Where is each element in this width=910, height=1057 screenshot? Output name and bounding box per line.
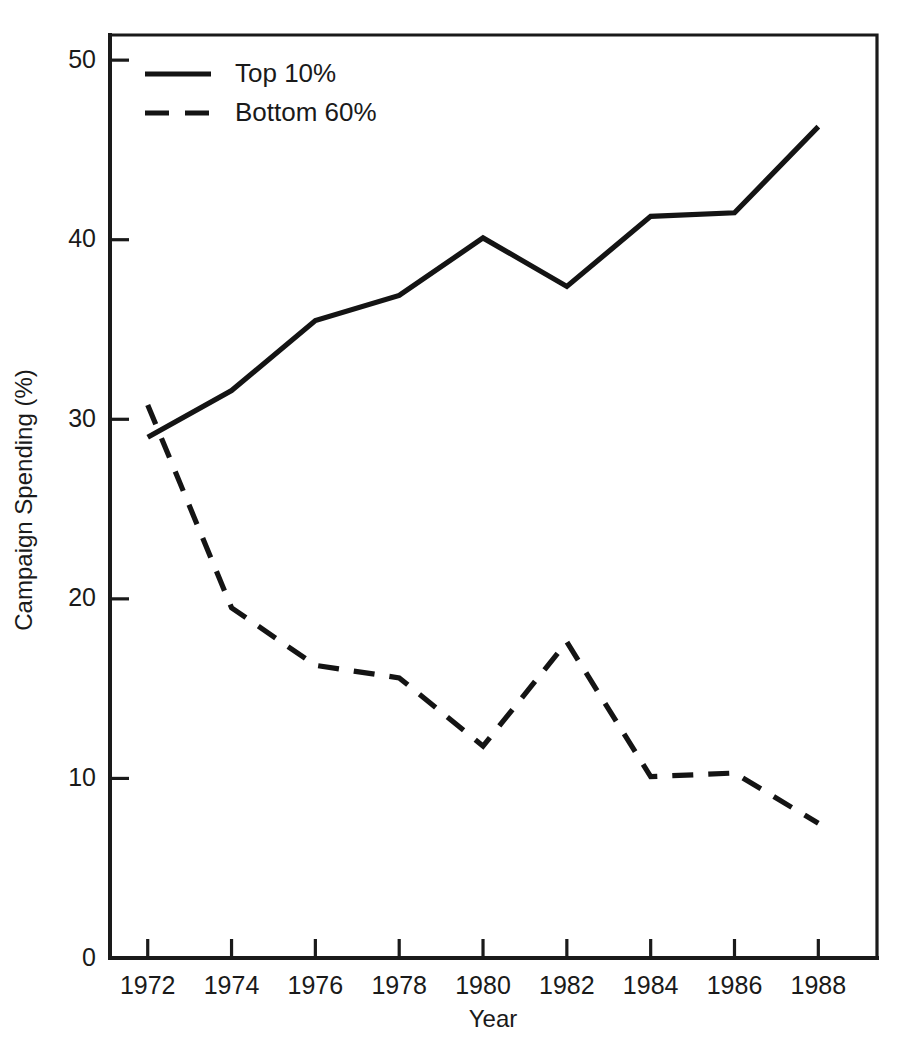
y-tick-label: 0 (82, 943, 96, 971)
x-tick-label: 1976 (288, 971, 344, 999)
y-tick-label: 40 (68, 224, 96, 252)
y-axis-ticks: 01020304050 (68, 45, 129, 971)
y-tick-label: 50 (68, 45, 96, 73)
x-tick-label: 1980 (455, 971, 511, 999)
x-tick-label: 1988 (791, 971, 847, 999)
x-tick-label: 1972 (120, 971, 176, 999)
y-tick-label: 20 (68, 583, 96, 611)
data-series-group (148, 127, 819, 824)
legend-entry-bottom-60: Bottom 60% (145, 97, 377, 127)
chart-container: 01020304050 1972197419761978198019821984… (0, 0, 910, 1057)
chart-legend: Top 10% Bottom 60% (145, 58, 377, 127)
x-tick-label: 1984 (623, 971, 679, 999)
y-tick-label: 10 (68, 763, 96, 791)
y-axis-title: Campaign Spending (%) (10, 369, 37, 630)
legend-label-top-10: Top 10% (235, 58, 336, 88)
y-tick-label: 30 (68, 404, 96, 432)
legend-entry-top-10: Top 10% (145, 58, 336, 88)
x-tick-label: 1982 (539, 971, 595, 999)
x-axis-ticks: 197219741976197819801982198419861988 (120, 939, 846, 999)
x-axis-title: Year (469, 1005, 518, 1032)
series-line-top-10 (148, 127, 819, 438)
legend-label-bottom-60: Bottom 60% (235, 97, 377, 127)
series-line-bottom-60 (148, 405, 819, 823)
x-tick-label: 1986 (707, 971, 763, 999)
frame-border (110, 35, 877, 958)
plot-frame (110, 35, 877, 958)
x-tick-label: 1974 (204, 971, 260, 999)
x-tick-label: 1978 (371, 971, 427, 999)
line-chart: 01020304050 1972197419761978198019821984… (0, 0, 910, 1057)
